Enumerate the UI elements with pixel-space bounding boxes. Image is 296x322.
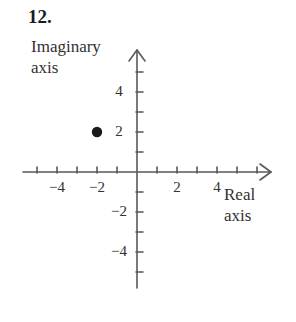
real-axis-line [23,164,271,180]
y-tick-label: −2 [99,204,139,219]
x-tick-label: 2 [157,180,197,195]
y-tick-label: 2 [99,124,139,139]
y-tick-label: −4 [99,244,139,259]
coordinate-plane-graphic [0,0,296,322]
x-tick-label: −2 [77,180,117,195]
x-tick-label: 4 [197,180,237,195]
x-tick-label: −4 [37,180,77,195]
complex-plane-figure: 12. Imaginaryaxis Realaxis −4−22442−2−4 [0,0,296,322]
y-tick-label: 4 [99,84,139,99]
